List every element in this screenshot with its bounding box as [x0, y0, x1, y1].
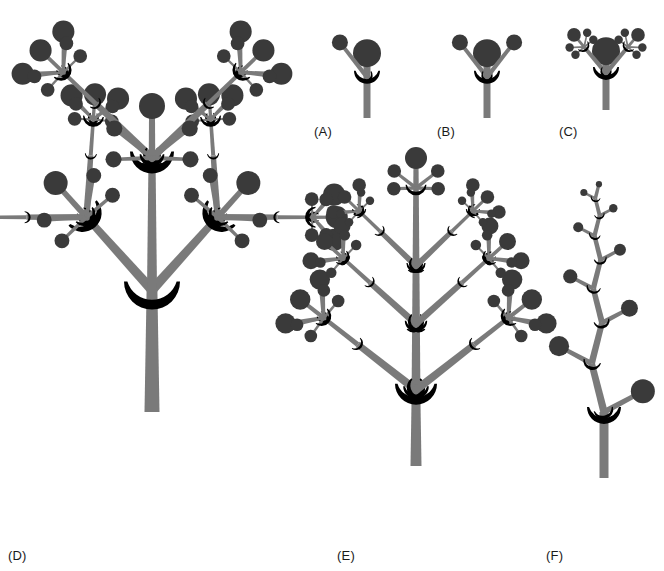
- lateral-stem: [342, 244, 357, 259]
- sub-stem: [149, 106, 156, 158]
- branch-stem: [583, 46, 608, 75]
- panel-label-a: (A): [314, 124, 332, 139]
- lateral-node: [614, 36, 622, 44]
- branch-crescent: [61, 65, 68, 79]
- sub-crescent: [365, 277, 378, 290]
- lateral-node: [223, 112, 237, 126]
- lateral-node: [583, 29, 591, 37]
- branch-stem: [311, 194, 335, 219]
- lateral-apex: [621, 300, 638, 317]
- lateral-node: [37, 213, 52, 228]
- branch-stem: [318, 279, 326, 318]
- segment-crescent: [581, 359, 601, 372]
- sub-axis: [206, 71, 242, 106]
- axis-segment: [594, 184, 601, 199]
- lateral-apex: [614, 244, 626, 256]
- branch-crescent: [405, 258, 424, 277]
- branch-stem: [26, 214, 86, 221]
- lateral-stem: [75, 103, 94, 120]
- lateral-apex: [631, 379, 655, 403]
- base-crescent: [354, 71, 380, 84]
- lateral-stem: [223, 55, 241, 73]
- lateral-apex: [609, 204, 617, 212]
- sub-crescent: [455, 277, 468, 290]
- branch-stem: [311, 216, 335, 241]
- lateral-stem: [93, 118, 112, 122]
- lateral-stem: [322, 290, 325, 318]
- branch-stem: [83, 155, 93, 217]
- branch-crescent: [480, 71, 495, 85]
- lateral-node: [182, 120, 198, 136]
- main-apex: [473, 39, 501, 67]
- lateral-stem: [75, 118, 94, 121]
- lateral-stem: [151, 127, 191, 159]
- segment-crescent: [590, 196, 601, 203]
- branch-stem: [473, 210, 499, 214]
- node-crescent: [76, 207, 101, 231]
- branch-crescent: [336, 256, 350, 263]
- lateral-stem: [461, 200, 473, 212]
- lateral-segment: [570, 275, 595, 291]
- lateral-segment: [578, 226, 596, 237]
- apex-node: [499, 233, 516, 250]
- lateral-stem: [575, 46, 585, 55]
- axis-segment: [592, 235, 603, 260]
- lateral-stem: [191, 106, 211, 121]
- sub-axis: [89, 119, 95, 155]
- lateral-stem: [508, 317, 535, 326]
- primary-branch: [84, 215, 156, 294]
- lateral-node: [305, 228, 319, 242]
- lateral-node: [315, 257, 326, 268]
- lateral-apex: [580, 189, 587, 196]
- sub-axis: [323, 316, 360, 346]
- lateral-segment: [599, 207, 614, 217]
- branch-stem: [358, 185, 361, 211]
- lateral-stem: [472, 210, 483, 222]
- leader-crescent: [130, 151, 174, 173]
- lateral-node: [86, 168, 101, 183]
- sub-crescent: [375, 226, 388, 239]
- panel-label-e: (E): [337, 548, 355, 563]
- main-apex: [353, 39, 381, 67]
- panel-f-graphic: [0, 0, 664, 571]
- lateral-stem: [394, 186, 416, 190]
- branch-crescent: [211, 207, 221, 227]
- branch-crescent: [360, 71, 375, 85]
- lateral-node: [431, 164, 445, 178]
- apex-node: [44, 171, 68, 195]
- lateral-stem: [310, 317, 325, 336]
- lateral-node: [106, 100, 120, 114]
- sub-crescent: [207, 153, 219, 160]
- panel-label-c: (C): [559, 124, 578, 139]
- lateral-stem: [341, 210, 360, 214]
- lateral-stem: [61, 216, 88, 242]
- branch-apex: [270, 63, 292, 85]
- sub-axis: [278, 215, 313, 219]
- branch-stem: [211, 155, 221, 217]
- lateral-stem: [113, 156, 152, 161]
- branch-crescent: [352, 209, 366, 216]
- lateral-node: [571, 51, 579, 59]
- lateral-stem: [211, 118, 230, 121]
- branch-crescent: [408, 258, 427, 277]
- node-crescent: [316, 309, 336, 330]
- base-crescent: [124, 282, 180, 310]
- lateral-stem: [415, 170, 439, 190]
- lateral-stem: [393, 170, 417, 190]
- apex-node: [481, 190, 495, 204]
- lateral-stem: [152, 156, 191, 161]
- lateral-stem: [358, 200, 370, 212]
- lateral-node: [340, 230, 351, 241]
- panel-e: [0, 0, 664, 571]
- branch-apex: [52, 21, 74, 43]
- lateral-stem: [493, 300, 509, 319]
- sub-stem: [312, 215, 336, 218]
- lateral-node: [185, 115, 199, 129]
- branch-apex: [12, 63, 34, 85]
- branch-crescent: [85, 113, 99, 128]
- sub-stem: [54, 181, 89, 219]
- branch-apex: [323, 229, 345, 251]
- sub-crescent: [84, 153, 96, 160]
- lateral-stem: [297, 317, 324, 326]
- lateral-node: [336, 210, 344, 218]
